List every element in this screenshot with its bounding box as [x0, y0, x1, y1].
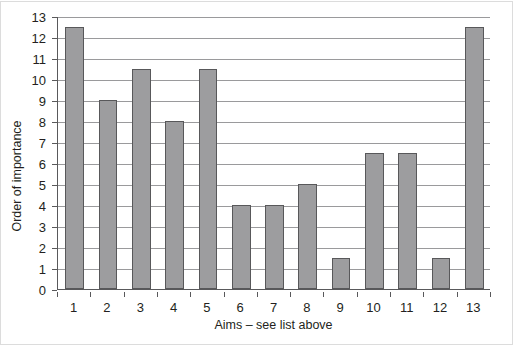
x-tick-label: 4: [170, 300, 177, 315]
y-tick-label: 9: [39, 95, 46, 108]
bar-chart: Order of importance 012345678910111213 1…: [0, 0, 515, 350]
gridline: [58, 143, 490, 144]
x-axis-title: Aims – see list above: [57, 318, 490, 332]
y-tick-mark: [52, 290, 57, 291]
x-tick-mark: [224, 292, 225, 297]
x-tick-label: 1: [70, 300, 77, 315]
x-tick-mark: [190, 292, 191, 297]
plot-area: [57, 17, 490, 290]
x-tick-mark: [57, 292, 58, 297]
x-tick-mark: [257, 292, 258, 297]
x-tick-mark: [390, 292, 391, 297]
x-tick-mark: [457, 292, 458, 297]
gridline: [58, 59, 490, 60]
bar: [232, 205, 251, 289]
x-tick-label: 11: [400, 300, 414, 315]
gridline: [58, 17, 490, 18]
x-axis: 12345678910111213: [57, 292, 490, 316]
bar: [165, 121, 184, 289]
y-axis: Order of importance 012345678910111213: [0, 17, 52, 290]
y-tick-label: 13: [32, 11, 46, 24]
y-tick-label: 6: [39, 158, 46, 171]
x-tick-mark: [490, 292, 491, 297]
y-tick-label: 4: [39, 200, 46, 213]
gridline: [58, 122, 490, 123]
y-tick-label: 3: [39, 221, 46, 234]
bar: [398, 153, 417, 290]
y-tick-label: 8: [39, 116, 46, 129]
y-tick-label: 11: [33, 53, 47, 66]
x-tick-label: 9: [336, 300, 343, 315]
x-tick-mark: [290, 292, 291, 297]
gridline: [58, 101, 490, 102]
bar: [132, 69, 151, 290]
bar: [298, 184, 317, 289]
y-tick-label: 1: [39, 263, 46, 276]
y-tick-label: 2: [39, 242, 46, 255]
x-tick-mark: [357, 292, 358, 297]
y-tick-label: 0: [39, 284, 46, 297]
gridline: [58, 80, 490, 81]
x-tick-mark: [90, 292, 91, 297]
y-tick-label: 10: [32, 74, 46, 87]
x-tick-label: 8: [303, 300, 310, 315]
y-tick-label: 7: [39, 137, 46, 150]
x-tick-mark: [124, 292, 125, 297]
x-tick-label: 3: [137, 300, 144, 315]
x-tick-label: 7: [270, 300, 277, 315]
bar: [99, 100, 118, 289]
bar: [65, 27, 84, 290]
bar: [432, 258, 451, 290]
gridline: [58, 38, 490, 39]
x-tick-label: 6: [237, 300, 244, 315]
bar: [365, 153, 384, 290]
bar: [265, 205, 284, 289]
gridline: [58, 164, 490, 165]
y-tick-label: 5: [39, 179, 46, 192]
x-tick-mark: [323, 292, 324, 297]
x-tick-mark: [423, 292, 424, 297]
bar: [199, 69, 218, 290]
x-tick-mark: [157, 292, 158, 297]
x-tick-label: 12: [433, 300, 447, 315]
bar: [332, 258, 351, 290]
y-tick-label: 12: [32, 32, 46, 45]
x-tick-label: 13: [466, 300, 480, 315]
bar: [465, 27, 484, 290]
y-axis-title: Order of importance: [10, 76, 24, 276]
x-tick-label: 2: [103, 300, 110, 315]
x-tick-label: 10: [366, 300, 380, 315]
x-tick-label: 5: [203, 300, 210, 315]
gridline: [58, 185, 490, 186]
